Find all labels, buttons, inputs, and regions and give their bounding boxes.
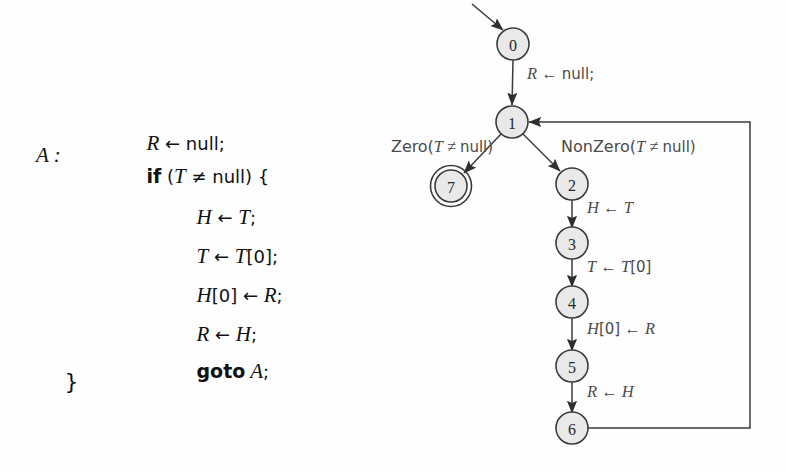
figure-canvas: R ← null; A : if (T ≠ null) { H ← T; T ←… <box>0 0 786 472</box>
node-7[interactable]: 7 <box>431 166 472 207</box>
code-line-7: goto A; <box>165 340 269 403</box>
node-2[interactable]: 2 <box>556 168 588 200</box>
node-5-label: 5 <box>568 359 576 376</box>
control-flow-graph: R ← null; Zero(T ≠ null) NonZero(T ≠ nul… <box>390 0 786 472</box>
edge-entry-arrow <box>472 4 503 30</box>
node-3-label: 3 <box>568 236 576 253</box>
node-6-label: 6 <box>568 421 576 438</box>
node-0[interactable]: 0 <box>497 28 529 60</box>
node-3[interactable]: 3 <box>556 227 588 259</box>
node-6[interactable]: 6 <box>556 412 588 444</box>
source-code-listing: R ← null; A : if (T ≠ null) { H ← T; T ←… <box>0 0 400 472</box>
node-2-label: 2 <box>568 177 576 194</box>
edge-label-zero: Zero(T ≠ null) <box>391 137 493 156</box>
edge-label-assign-r: R ← H <box>586 382 635 401</box>
node-1[interactable]: 1 <box>496 106 528 138</box>
node-7-label: 7 <box>447 179 455 196</box>
code-line-8-close-brace: } <box>33 350 79 414</box>
node-1-label: 1 <box>508 115 516 132</box>
edge-label-init: R ← null; <box>526 64 594 83</box>
edge-0-to-1 <box>512 60 513 105</box>
edge-label-nonzero: NonZero(T ≠ null) <box>561 137 696 156</box>
edge-label-assign-t: T ← T[0] <box>587 257 651 276</box>
code-block-label: A : <box>36 145 61 166</box>
node-0-label: 0 <box>509 37 517 54</box>
flow-graph-svg: R ← null; Zero(T ≠ null) NonZero(T ≠ nul… <box>390 0 786 472</box>
node-4[interactable]: 4 <box>556 286 588 318</box>
node-4-label: 4 <box>568 295 576 312</box>
edge-label-assign-h: H ← T <box>586 198 635 217</box>
node-5[interactable]: 5 <box>556 350 588 382</box>
edge-label-store-h0: H[0] ← R <box>586 319 655 338</box>
edge-1-to-2 <box>523 134 560 171</box>
